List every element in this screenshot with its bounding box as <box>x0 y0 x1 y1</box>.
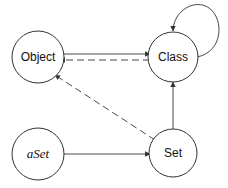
node-object: Object <box>12 31 64 83</box>
node-set: Set <box>149 129 197 177</box>
edge-set-to-object <box>55 75 155 140</box>
node-class: Class <box>148 32 198 82</box>
node-label: Object <box>21 50 56 64</box>
node-label: Class <box>158 50 188 64</box>
diagram: Object Class aSet Set <box>0 0 228 188</box>
node-label: Set <box>164 146 183 160</box>
node-aset: aSet <box>12 128 64 180</box>
node-label: aSet <box>27 146 50 161</box>
